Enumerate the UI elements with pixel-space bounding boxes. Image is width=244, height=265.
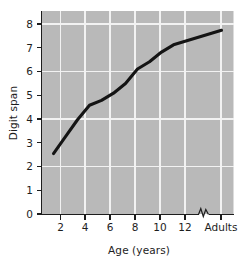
x-tick-label-10: 10 [153,221,166,233]
y-tick-label-7: 7 [26,42,33,54]
y-axis-tick-labels: 8 7 6 5 4 3 2 1 0 [26,18,33,220]
y-tick-label-5: 5 [26,89,33,101]
y-axis-title: Digit span [7,86,19,140]
y-tick-label-0: 0 [26,208,33,220]
y-tick-label-8: 8 [26,18,33,30]
x-tick-label-adults: Adults [205,221,238,233]
x-axis-title: Age (years) [108,244,170,256]
x-tick-label-12: 12 [178,221,191,233]
y-tick-label-2: 2 [26,160,33,172]
y-tick-label-1: 1 [26,184,33,196]
y-tick-label-4: 4 [26,113,33,125]
y-tick-label-3: 3 [26,137,33,149]
x-tick-label-2: 2 [57,221,64,233]
x-tick-label-4: 4 [82,221,89,233]
x-tick-label-8: 8 [132,221,139,233]
digit-span-line-chart: 8 7 6 5 4 3 2 1 0 2 4 6 8 10 12 Adults A… [0,0,244,265]
x-tick-label-6: 6 [107,221,114,233]
plot-area-background [42,11,234,214]
y-tick-label-6: 6 [26,65,33,77]
